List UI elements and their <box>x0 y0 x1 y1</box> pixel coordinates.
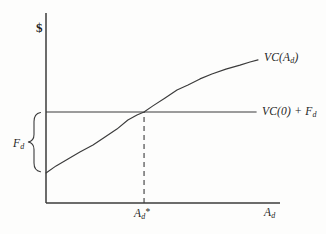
vc-curve <box>46 60 258 173</box>
fd-brace <box>28 113 41 172</box>
vc-curve-label: VC(Ad) <box>264 51 299 67</box>
x-axis-label: Ad <box>264 206 275 222</box>
y-axis-label: $ <box>36 22 43 34</box>
figure-canvas: $ VC(Ad) VC(0) + Fd Fd Ad* Ad <box>0 0 326 234</box>
vc0-line-label: VC(0) + Fd <box>262 105 317 121</box>
fd-label: Fd <box>13 137 24 153</box>
y-axis-symbol: $ <box>36 20 43 35</box>
xstar-label: Ad* <box>134 206 150 223</box>
